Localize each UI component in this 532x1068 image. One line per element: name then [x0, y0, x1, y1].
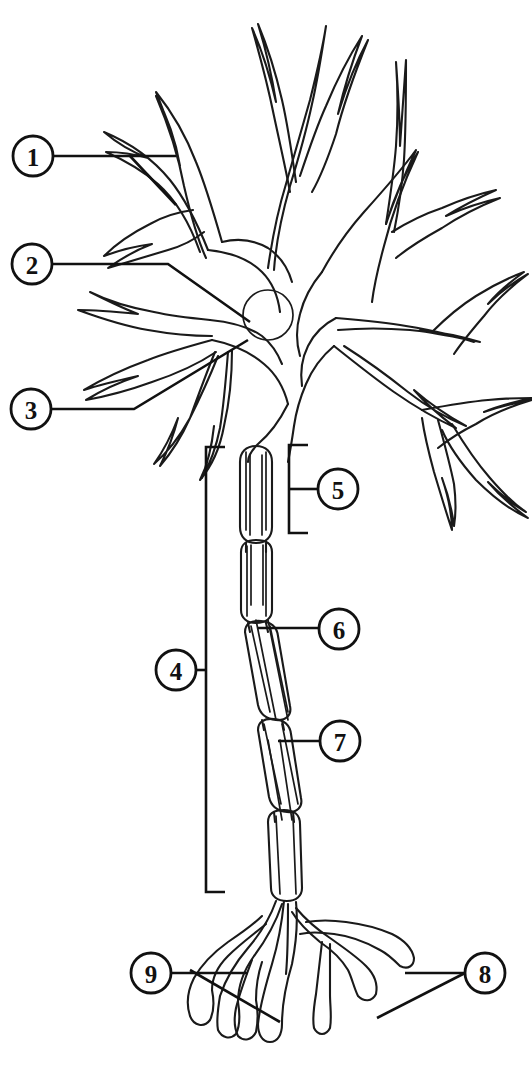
diagram-background — [0, 0, 532, 1068]
callout-label-1: 1 — [27, 144, 40, 171]
callout-7[interactable]: 7 — [320, 721, 360, 761]
callout-label-8: 8 — [479, 961, 492, 988]
callout-4[interactable]: 4 — [156, 650, 196, 690]
callout-label-4: 4 — [170, 658, 183, 685]
neuron-diagram: 1 2 3 4 5 6 7 — [0, 0, 532, 1068]
callout-8[interactable]: 8 — [465, 953, 505, 993]
callout-label-5: 5 — [332, 477, 345, 504]
callout-label-2: 2 — [26, 252, 39, 279]
callout-label-6: 6 — [333, 617, 346, 644]
callout-9[interactable]: 9 — [131, 953, 171, 993]
callout-label-3: 3 — [25, 397, 38, 424]
callout-label-9: 9 — [145, 961, 158, 988]
callout-3[interactable]: 3 — [11, 389, 51, 429]
callout-5[interactable]: 5 — [318, 469, 358, 509]
callout-label-7: 7 — [334, 729, 347, 756]
neuron-illustration: 1 2 3 4 5 6 7 — [0, 0, 532, 1068]
callout-6[interactable]: 6 — [319, 609, 359, 649]
callout-1[interactable]: 1 — [13, 136, 53, 176]
callout-2[interactable]: 2 — [12, 244, 52, 284]
